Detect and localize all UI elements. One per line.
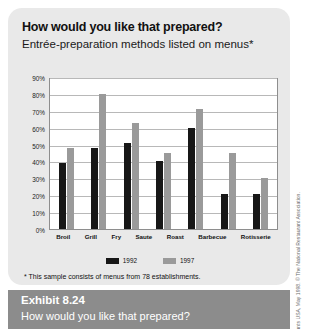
bar-grill-1992 [91,148,98,229]
bar-broil-1992 [59,163,66,229]
legend-swatch-1997 [163,258,176,264]
bar-group [156,79,171,229]
bar-rotisserie-1997 [261,178,268,229]
legend-item-1992: 1992 [106,257,137,264]
x-axis-label-saute: Saute [135,233,152,240]
legend-item-1997: 1997 [163,257,194,264]
x-axis-label-rotisserie: Rotisserie [241,233,271,240]
y-axis: 90%80%70%60%50%40%30%20%10%0% [22,78,48,230]
bar-barbecue-1992 [221,194,228,229]
x-axis-label-roast: Roast [167,233,184,240]
chart-title: How would you like that prepared? [22,20,280,35]
y-axis-tick: 50% [32,142,45,149]
bar-saute-1997 [164,153,171,229]
y-axis-tick: 40% [32,159,45,166]
bar-saute-1992 [156,161,163,229]
bar-broil-1997 [67,148,74,229]
heading-block: How would you like that prepared? Entrée… [22,20,280,52]
bars-layer [50,79,277,229]
plot-area [49,78,278,230]
source-credit-text: Used with permission from Restaurants US… [295,192,301,329]
y-axis-tick: 70% [32,108,45,115]
exhibit-caption-band: Exhibit 8.24 How would you like that pre… [8,290,290,329]
bar-group [124,79,139,229]
source-credit: Used with permission from Restaurants US… [292,4,304,304]
bar-rotisserie-1992 [253,194,260,229]
chart-plot-wrapper: 90%80%70%60%50%40%30%20%10%0% BroilGrill… [22,78,278,246]
bar-group [253,79,268,229]
bar-barbecue-1997 [229,153,236,229]
y-axis-tick: 30% [32,176,45,183]
y-axis-tick: 80% [32,91,45,98]
bar-fry-1997 [132,123,139,229]
y-axis-tick: 0% [36,227,45,234]
chart-legend: 19921997 [22,257,278,264]
y-axis-tick: 90% [32,75,45,82]
exhibit-number: Exhibit 8.24 [21,294,85,306]
chart-subtitle: Entrée-preparation methods listed on men… [22,37,280,52]
legend-label-1997: 1997 [180,257,194,264]
y-axis-tick: 20% [32,193,45,200]
x-axis-label-broil: Broil [56,233,70,240]
bar-grill-1997 [99,94,106,229]
x-axis-label-fry: Fry [111,233,121,240]
chart-footnote: * This sample consists of menus from 78 … [24,273,201,280]
bar-group [188,79,203,229]
x-axis-label-grill: Grill [85,233,97,240]
x-axis-labels: BroilGrillFrySauteRoastBarbecueRotisseri… [49,233,278,240]
bar-roast-1992 [188,128,195,229]
bar-group [221,79,236,229]
bar-roast-1997 [196,109,203,229]
bar-fry-1992 [124,143,131,229]
bar-group [91,79,106,229]
legend-swatch-1992 [106,258,119,264]
x-axis-label-barbecue: Barbecue [198,233,226,240]
figure-panel: How would you like that prepared? Entrée… [8,8,290,285]
y-axis-tick: 60% [32,125,45,132]
legend-label-1992: 1992 [123,257,137,264]
y-axis-tick: 10% [32,210,45,217]
exhibit-caption: How would you like that prepared? [21,310,190,322]
bar-group [59,79,74,229]
